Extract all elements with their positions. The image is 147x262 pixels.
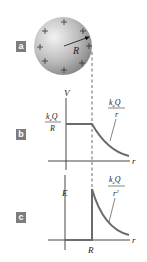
inside-value-denominator: R: [49, 124, 55, 133]
outside-value-denominator: r2: [113, 189, 119, 198]
inside-value-numerator: keQ: [46, 112, 58, 122]
e-axis-label: E: [61, 188, 68, 198]
potential-graph: V r keQ R keQ r: [45, 88, 136, 170]
leader-line: [110, 119, 116, 141]
charged-sphere: R: [34, 17, 92, 75]
figure-canvas: R V r keQ R keQ r E r R keQ r2: [0, 0, 147, 262]
r-tick-label: R: [87, 245, 94, 255]
leader-line: [109, 198, 115, 222]
r-axis-label: r: [132, 235, 136, 245]
outside-value-numerator: keQ: [109, 175, 121, 185]
radius-label: R: [72, 45, 79, 56]
v-axis-label: V: [64, 88, 71, 98]
potential-curve: [66, 124, 129, 156]
outside-value-denominator: r: [115, 110, 119, 119]
field-curve: [66, 189, 129, 240]
outside-value-numerator: keQ: [109, 98, 121, 108]
r-axis-label: r: [132, 156, 136, 166]
